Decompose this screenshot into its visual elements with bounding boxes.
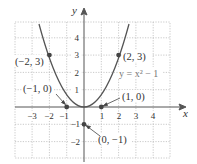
label-m2-3: (−2, 3) bbox=[15, 56, 44, 68]
y-tick-m2: −2 bbox=[70, 137, 80, 147]
label-2-3: (2, 3) bbox=[123, 51, 146, 63]
y-tick-m1: −1 bbox=[70, 119, 80, 129]
y-tick-4: 4 bbox=[75, 33, 80, 43]
point-m2-3 bbox=[47, 53, 52, 58]
x-tick-1: 1 bbox=[100, 111, 105, 121]
equation-label: y = x² − 1 bbox=[119, 68, 158, 79]
x-tick-3: 3 bbox=[134, 111, 139, 121]
x-tick-m1: −1 bbox=[59, 111, 69, 121]
graph-canvas: x y −3 −2 −1 1 2 3 4 4 3 2 1 −1 −2 bbox=[0, 0, 197, 164]
label-1-0: (1, 0) bbox=[122, 91, 145, 103]
point-2-3 bbox=[116, 53, 121, 58]
point-m1-0 bbox=[64, 105, 69, 110]
point-0-m1 bbox=[82, 122, 87, 127]
y-tick-2: 2 bbox=[75, 68, 80, 78]
x-tick-labels: −3 −2 −1 1 2 3 4 bbox=[24, 111, 160, 121]
x-tick-m3: −3 bbox=[27, 111, 37, 121]
x-axis-label: x bbox=[182, 107, 188, 119]
y-axis-label: y bbox=[71, 4, 77, 16]
x-tick-m2: −2 bbox=[44, 111, 54, 121]
x-tick-4: 4 bbox=[151, 111, 156, 121]
label-m1-0: (−1, 0) bbox=[23, 83, 52, 95]
point-1-0 bbox=[99, 105, 104, 110]
y-tick-1: 1 bbox=[75, 85, 80, 95]
y-axis-arrow-icon bbox=[81, 8, 87, 15]
y-tick-3: 3 bbox=[75, 50, 80, 60]
x-tick-2: 2 bbox=[117, 111, 122, 121]
label-0-m1: (0, −1) bbox=[98, 134, 127, 146]
parabola-graph: x y −3 −2 −1 1 2 3 4 4 3 2 1 −1 −2 bbox=[0, 0, 197, 164]
